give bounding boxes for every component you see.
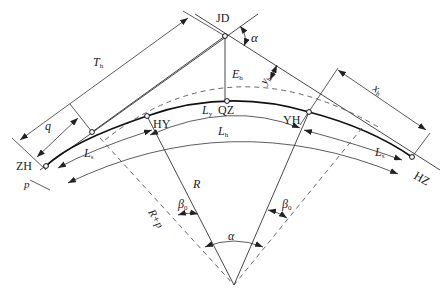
label-Ly: Ly (201, 103, 213, 118)
point-HY (145, 114, 150, 119)
point-JD (223, 34, 228, 39)
label-E: Eh (231, 67, 243, 82)
point-ZH (44, 164, 49, 169)
label-HZ: HZ (412, 168, 433, 188)
label-Ls-left: Ls (83, 146, 94, 161)
point-q (90, 130, 95, 135)
label-Lh: Lh (217, 124, 229, 139)
diagram-svg: JD ZH HY QZ YH HZ α α Th q p Eh yh xh Ly… (0, 0, 447, 295)
label-Ls-right: Ls (374, 145, 385, 160)
label-JD: JD (216, 11, 230, 25)
curve-points (44, 34, 415, 169)
radii-dashed (100, 128, 362, 285)
beta-arc-right (268, 210, 287, 218)
beta-arc-left (178, 213, 198, 215)
label-alpha-center: α (228, 229, 235, 243)
point-YH (307, 110, 312, 115)
label-y: yh (257, 72, 274, 88)
point-HZ (410, 155, 415, 160)
label-x: xh (369, 80, 386, 98)
label-R: R (192, 177, 201, 191)
label-YH: YH (283, 113, 301, 127)
label-HY: HY (153, 117, 171, 131)
label-beta-right: β0 (281, 197, 292, 212)
label-ZH: ZH (16, 159, 32, 173)
label-T: Th (93, 55, 104, 70)
label-beta-left: β0 (177, 197, 188, 212)
label-p: p (23, 178, 30, 190)
label-R-plus-p: R+p (146, 206, 167, 230)
curve-diagram: JD ZH HY QZ YH HZ α α Th q p Eh yh xh Ly… (0, 0, 447, 295)
label-q: q (45, 119, 51, 133)
label-QZ: QZ (218, 103, 234, 117)
label-alpha-top: α (251, 30, 259, 45)
